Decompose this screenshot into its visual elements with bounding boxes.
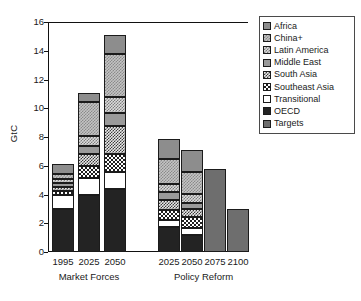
bar-segment bbox=[181, 217, 203, 228]
bar-segment bbox=[181, 209, 203, 217]
chart-container: GtC 0246810121416 1995202520502025205020… bbox=[0, 0, 361, 301]
bar-segment bbox=[158, 192, 180, 199]
bar-segment bbox=[78, 166, 100, 178]
bar-segment bbox=[52, 174, 74, 179]
bar[interactable] bbox=[52, 22, 74, 252]
legend-swatch-icon bbox=[263, 120, 271, 128]
legend-item-label: South Asia bbox=[274, 70, 317, 79]
legend-item-targets[interactable]: Targets bbox=[263, 118, 351, 130]
bar-segment bbox=[181, 228, 203, 236]
y-tick-label: 8 bbox=[0, 132, 50, 142]
bar-segment bbox=[158, 200, 180, 211]
legend-item-label: Latin America bbox=[274, 46, 329, 55]
bar-segment bbox=[78, 195, 100, 253]
bar-segment bbox=[78, 178, 100, 195]
bar[interactable] bbox=[104, 22, 126, 252]
y-tick-label: 12 bbox=[0, 75, 50, 85]
legend-item-label: Africa bbox=[274, 22, 297, 31]
bar-segment bbox=[104, 97, 126, 113]
legend-item-label: Targets bbox=[274, 119, 304, 128]
legend-item-label: Transitional bbox=[274, 95, 320, 104]
bar[interactable] bbox=[78, 22, 100, 252]
x-tick-label: 2050 bbox=[99, 257, 131, 267]
legend-swatch-icon bbox=[263, 83, 271, 91]
bar[interactable] bbox=[158, 22, 180, 252]
y-tick-label: 14 bbox=[0, 46, 50, 56]
bar-segment bbox=[52, 164, 74, 173]
legend: AfricaChina+Latin AmericaMiddle EastSout… bbox=[259, 16, 355, 134]
legend-swatch-icon bbox=[263, 71, 271, 79]
legend-swatch-icon bbox=[263, 59, 271, 67]
bar-segment bbox=[181, 194, 203, 203]
bar-segment bbox=[104, 189, 126, 252]
legend-item-transitional[interactable]: Transitional bbox=[263, 93, 351, 105]
bar-segment bbox=[52, 187, 74, 191]
legend-swatch-icon bbox=[263, 34, 271, 42]
bar-segment bbox=[158, 159, 180, 184]
y-tick-label: 2 bbox=[0, 218, 50, 228]
y-tick-label: 10 bbox=[0, 103, 50, 113]
bar-segment bbox=[158, 220, 180, 227]
legend-item-china[interactable]: China+ bbox=[263, 32, 351, 44]
legend-item-label: OECD bbox=[274, 107, 300, 116]
bar-segment bbox=[181, 172, 203, 194]
bar-segment bbox=[181, 235, 203, 252]
legend-item-middle-east[interactable]: Middle East bbox=[263, 57, 351, 69]
bar-segment bbox=[158, 227, 180, 252]
y-tick-label: 6 bbox=[0, 161, 50, 171]
bar-segment bbox=[181, 150, 203, 172]
group-label: Market Forces bbox=[38, 272, 140, 282]
bar-segment bbox=[78, 93, 100, 102]
bar-segment bbox=[78, 102, 100, 136]
bar-segment bbox=[104, 126, 126, 153]
bar-segment bbox=[78, 146, 100, 153]
legend-swatch-icon bbox=[263, 95, 271, 103]
legend-item-southeast-asia[interactable]: Southeast Asia bbox=[263, 81, 351, 93]
bar-segment bbox=[158, 210, 180, 219]
bar-segment bbox=[78, 154, 100, 166]
bar[interactable] bbox=[204, 22, 226, 252]
legend-item-label: Southeast Asia bbox=[274, 83, 334, 92]
legend-swatch-icon bbox=[263, 46, 271, 54]
legend-item-oecd[interactable]: OECD bbox=[263, 105, 351, 117]
bar-segment bbox=[52, 195, 74, 209]
bar-segment bbox=[104, 54, 126, 97]
y-tick-label: 16 bbox=[0, 17, 50, 27]
bar-segment bbox=[104, 113, 126, 126]
bar-segment bbox=[158, 184, 180, 193]
bar-segment bbox=[204, 169, 226, 252]
bar-segment bbox=[158, 139, 180, 158]
bar-segment bbox=[78, 136, 100, 147]
y-tick-label: 0 bbox=[0, 247, 50, 257]
bar[interactable] bbox=[181, 22, 203, 252]
x-tick-label: 2100 bbox=[222, 257, 254, 267]
bar-segment bbox=[52, 191, 74, 195]
bar[interactable] bbox=[227, 22, 249, 252]
legend-item-latin-america[interactable]: Latin America bbox=[263, 44, 351, 56]
bar-segment bbox=[181, 203, 203, 209]
legend-item-label: China+ bbox=[274, 34, 303, 43]
legend-swatch-icon bbox=[263, 22, 271, 30]
group-label: Policy Reform bbox=[144, 272, 263, 282]
legend-item-south-asia[interactable]: South Asia bbox=[263, 69, 351, 81]
legend-item-label: Middle East bbox=[274, 58, 321, 67]
bar-segment bbox=[52, 209, 74, 252]
y-tick-label: 4 bbox=[0, 190, 50, 200]
legend-swatch-icon bbox=[263, 107, 271, 115]
bar-segment bbox=[227, 209, 249, 252]
bar-segment bbox=[52, 183, 74, 187]
bar-segment bbox=[104, 35, 126, 54]
bar-segment bbox=[104, 154, 126, 172]
bar-segment bbox=[104, 172, 126, 189]
legend-item-africa[interactable]: Africa bbox=[263, 20, 351, 32]
bar-segment bbox=[52, 179, 74, 183]
